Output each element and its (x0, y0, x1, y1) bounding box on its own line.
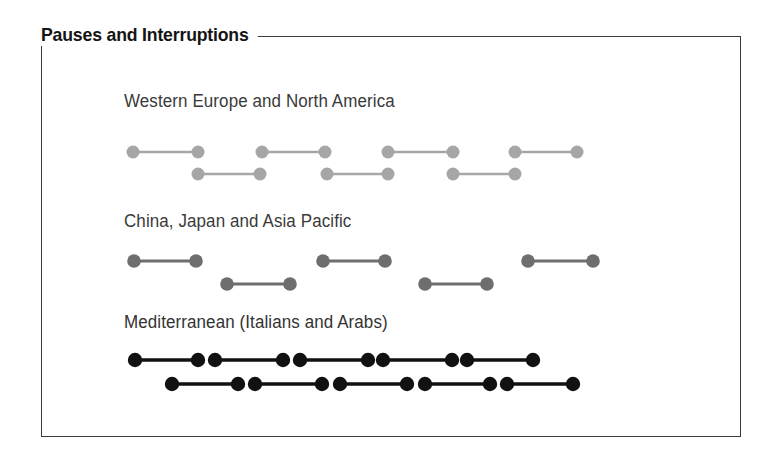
pauses-and-interruptions-figure: Pauses and Interruptions Western Europe … (0, 0, 782, 459)
page-title: Pauses and Interruptions (41, 24, 258, 46)
figure-border (41, 36, 741, 437)
